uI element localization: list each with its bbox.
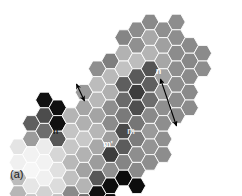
hex-cell[interactable]: [141, 155, 159, 171]
hex-cell[interactable]: [194, 45, 212, 61]
hex-cell[interactable]: [128, 178, 146, 194]
hex-cell[interactable]: [168, 108, 186, 124]
label-n: n: [156, 66, 161, 76]
figure-root: nn'mm' (a): [0, 0, 242, 196]
panel-label: (a): [10, 168, 23, 181]
hex-cell[interactable]: [194, 61, 212, 77]
hex-cell[interactable]: [168, 14, 186, 30]
label-m: m: [127, 126, 135, 136]
label-n-prime: n': [53, 126, 60, 136]
hexagonal-som-map: nn'mm': [0, 0, 242, 196]
label-m-prime: m': [103, 139, 113, 149]
